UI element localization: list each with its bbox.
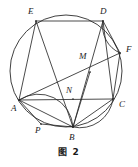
point-label-a: A	[11, 104, 17, 113]
point-label-b: B	[69, 133, 75, 142]
circumcircle	[10, 15, 122, 127]
point-label-n: N	[66, 86, 72, 95]
vertex-c	[112, 98, 114, 100]
figure-caption: 图 2	[0, 147, 138, 158]
point-label-m: M	[79, 52, 87, 61]
vertex-b	[72, 126, 74, 128]
vertex-e	[35, 20, 37, 22]
segment-AC	[19, 99, 113, 100]
arc-apb	[19, 94, 73, 127]
vertex-f	[119, 52, 121, 54]
vertex-m	[89, 71, 91, 73]
vertex-n	[72, 98, 74, 100]
segment-AP	[19, 100, 41, 124]
segment-EA	[19, 21, 36, 100]
vertex-d	[102, 20, 104, 22]
point-label-f: F	[126, 45, 132, 54]
vertices-layer	[18, 20, 121, 128]
geometry-figure: EDFMCNAPB 图 2	[0, 0, 138, 167]
point-label-d: D	[100, 7, 107, 16]
point-label-c: C	[119, 100, 125, 109]
vertex-a	[18, 99, 20, 101]
point-label-p: P	[35, 126, 41, 135]
segment-CF	[113, 53, 120, 99]
segment-DF	[103, 21, 120, 53]
segment-BC	[73, 99, 113, 127]
circumcircle-layer	[10, 15, 122, 127]
point-label-e: E	[28, 7, 34, 16]
